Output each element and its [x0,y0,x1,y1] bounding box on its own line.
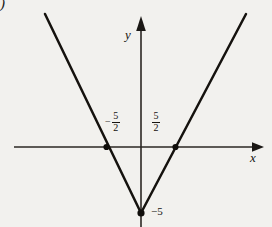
label-x-intercept-right-denominator: 2 [153,123,160,133]
label-x-intercept-left-fraction: 5 2 [112,111,120,133]
label-x-intercept-right-fraction: 5 2 [152,111,160,133]
point-x-intercept-right [172,144,178,150]
label-x-intercept-right-numerator: 5 [153,111,160,121]
graph-canvas [0,0,272,227]
curve-left-branch [45,14,141,213]
figure-absolute-value-graph: ) y x − 5 2 5 2 −5 [0,0,272,227]
label-vertex-value: −5 [151,206,163,217]
label-x-intercept-left-denominator: 2 [112,123,119,133]
label-x-intercept-left-sign: − [105,117,111,128]
label-x-intercept-left: − 5 2 [105,111,120,133]
point-vertex [137,209,144,216]
point-x-intercept-left [103,144,109,150]
y-axis-label: y [125,28,131,41]
y-axis-arrowhead [136,16,146,31]
label-x-intercept-left-numerator: 5 [112,111,119,121]
x-axis-label: x [250,151,256,164]
label-x-intercept-right: 5 2 [152,111,160,133]
